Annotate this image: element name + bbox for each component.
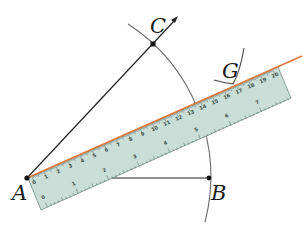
ray-arrow-icon: [171, 16, 178, 23]
line-ag: [27, 56, 302, 178]
point-c: [151, 42, 156, 47]
label-c: C: [150, 14, 166, 38]
point-b: [207, 176, 212, 181]
label-a: A: [10, 181, 27, 205]
point-a: [24, 175, 29, 180]
label-b: B: [210, 181, 226, 205]
construction-diagram: 0123456789101112131415161718192001234567…: [0, 0, 304, 230]
ruler: 0123456789101112131415161718192001234567: [28, 67, 291, 210]
label-g: G: [222, 59, 239, 83]
